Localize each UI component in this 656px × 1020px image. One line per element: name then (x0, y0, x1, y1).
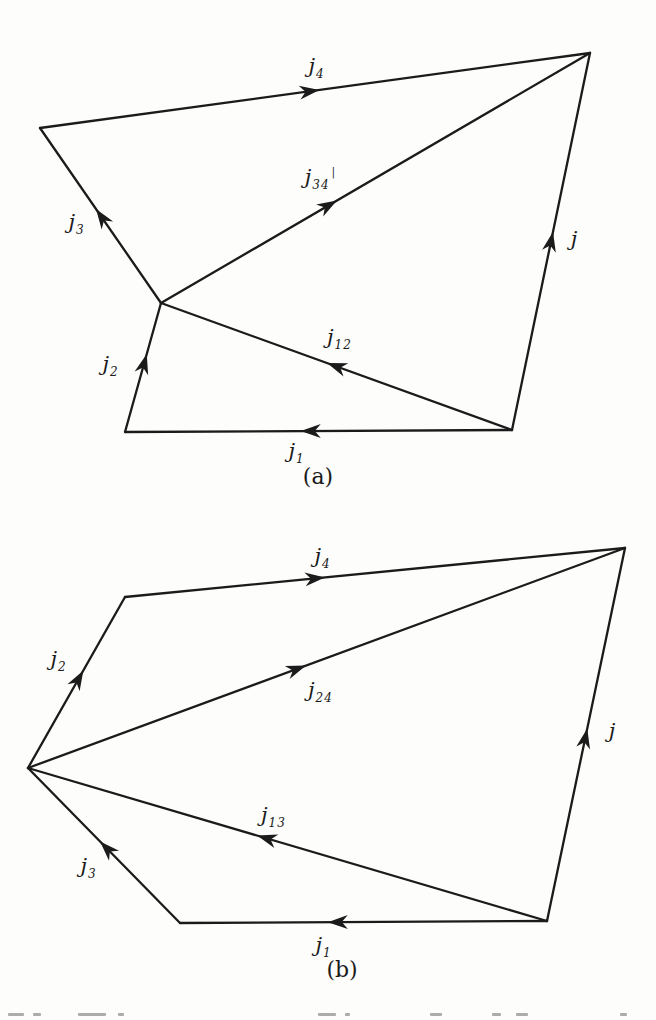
arrowhead-a-j12 (325, 357, 349, 377)
cropped-text-fragment (33, 1013, 41, 1016)
label-b-j13: j13 (261, 805, 285, 826)
arrowhead-b-j13 (255, 829, 278, 848)
label-b-j: j (609, 721, 616, 742)
cropped-text-fragment (118, 1013, 124, 1016)
cropped-text-fragment (492, 1013, 501, 1016)
arrowhead-a-j3 (90, 205, 113, 229)
arrowhead-b-j24 (285, 659, 309, 679)
label-b-j4: j4 (314, 546, 329, 567)
label-a-j1: j1 (288, 441, 303, 462)
label-a-j34: j34| (305, 166, 336, 188)
arrowhead-a-j34 (316, 194, 340, 216)
label-b-j3: j3 (80, 856, 95, 877)
cropped-text-fragment (516, 1013, 528, 1016)
vector-coupling-diagrams (0, 0, 656, 1020)
edge-a-j1 (125, 430, 512, 432)
cropped-text-fragment (318, 1013, 336, 1016)
cropped-text-fragment (8, 1013, 24, 1016)
caption-b: (b) (326, 959, 357, 981)
label-a-j4: j4 (308, 56, 323, 77)
scanned-figure-page: j4j34|jj12j1j2j3j4j24jj13j1j2j3 (a) (b) (0, 0, 656, 1020)
stray-tick-mark: | (332, 165, 336, 178)
label-b-j24: j24 (308, 680, 332, 701)
label-b-j2: j2 (50, 649, 65, 670)
cropped-text-fragment (430, 1013, 442, 1016)
arrowhead-a-j2 (135, 352, 154, 375)
label-a-j3: j3 (68, 212, 83, 233)
cropped-text-fragment (345, 1013, 350, 1016)
edge-b-j4 (125, 548, 625, 597)
cropped-text-fragment (620, 1013, 627, 1016)
caption-a: (a) (303, 466, 333, 488)
edge-a-j34 (161, 53, 590, 303)
label-a-j2: j2 (102, 354, 117, 375)
arrowhead-a-j (542, 230, 560, 252)
edge-b-j1 (180, 921, 547, 923)
arrowhead-b-j (576, 727, 594, 749)
edge-b-j24 (28, 548, 625, 768)
label-a-j12: j12 (327, 327, 351, 348)
edge-a-j2 (125, 303, 161, 432)
arrowhead-b-j2 (67, 667, 89, 691)
label-a-j: j (571, 229, 578, 250)
label-b-j1: j1 (315, 935, 330, 956)
cropped-text-fragment (78, 1013, 106, 1016)
